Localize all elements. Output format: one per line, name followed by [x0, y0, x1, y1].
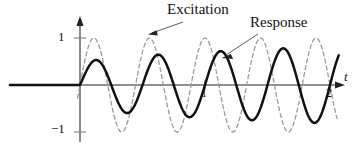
x-tick-label-1: 1 — [201, 87, 207, 99]
excitation-leader-arrowhead — [148, 30, 158, 35]
y-tick-label-neg1: −1 — [51, 122, 65, 135]
response-label: Response — [250, 15, 308, 30]
x-tick-label-2: 2 — [326, 87, 332, 99]
x-axis-label: t — [344, 70, 348, 83]
y-tick-label-pos1: 1 — [58, 30, 65, 43]
response-leader-line — [226, 34, 258, 55]
excitation-label: Excitation — [167, 2, 229, 17]
y-axis-arrowhead — [76, 16, 83, 26]
